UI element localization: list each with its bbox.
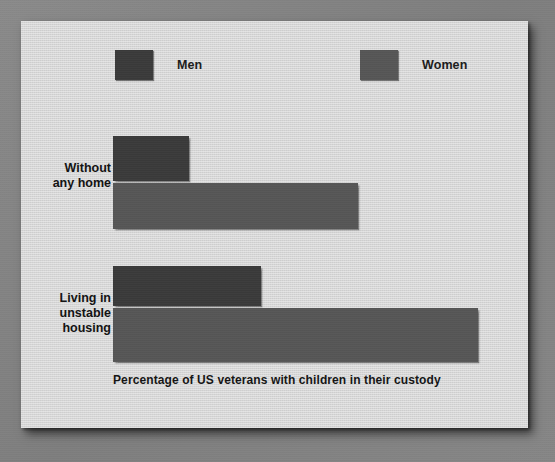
- screenshot-root: Men Women Without any home Livin: [0, 0, 555, 462]
- bar-men-living-in-unstable-housing: [113, 266, 261, 306]
- bar-men-without-any-home: [113, 136, 189, 181]
- plot-area: Without any home Living in unstable hous…: [21, 21, 528, 428]
- category-label-1-line-0: Living in: [15, 291, 111, 306]
- category-label-0: Without any home: [15, 161, 111, 191]
- category-label-0-line-0: Without: [15, 161, 111, 176]
- chart-card: Men Women Without any home Livin: [21, 21, 528, 428]
- category-label-1: Living in unstable housing: [15, 291, 111, 336]
- category-label-0-line-1: any home: [15, 176, 111, 191]
- category-label-1-line-2: housing: [15, 321, 111, 336]
- bar-group-living-in-unstable-housing: Living in unstable housing: [21, 266, 528, 362]
- chart-caption: Percentage of US veterans with children …: [113, 373, 441, 387]
- bar-group-without-any-home: Without any home: [21, 136, 528, 228]
- category-label-1-line-1: unstable: [15, 306, 111, 321]
- bar-women-without-any-home: [113, 183, 358, 229]
- bar-women-living-in-unstable-housing: [113, 308, 478, 362]
